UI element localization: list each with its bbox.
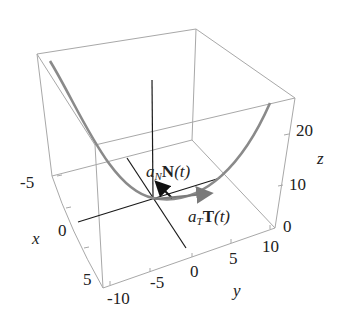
z-tick-0: 0 [283, 218, 292, 235]
y-tick-10: 10 [262, 238, 279, 255]
y-axis-label: y [233, 282, 241, 299]
normal-vec: N [162, 162, 174, 181]
normal-sub: N [155, 170, 162, 182]
y-tick-neg5: -5 [150, 274, 164, 291]
tangent-vec: T [203, 207, 214, 226]
tick-marks [57, 134, 289, 285]
y-tick-neg10: -10 [107, 290, 130, 307]
x-tick-0: 0 [58, 222, 67, 239]
3d-plot [0, 0, 352, 318]
normal-coef: a [146, 162, 155, 181]
x-axis-label: x [32, 230, 40, 247]
x-tick-neg5: -5 [20, 174, 34, 191]
tangent-coef: a [188, 207, 197, 226]
z-tick-10: 10 [289, 176, 306, 193]
z-tick-20: 20 [296, 122, 313, 139]
y-tick-0: 0 [190, 263, 199, 280]
x-tick-5: 5 [83, 271, 92, 288]
y-tick-5: 5 [229, 250, 238, 267]
normal-component-label: aNN(t) [146, 163, 190, 182]
z-axis-label: z [317, 150, 324, 167]
normal-arg: (t) [174, 162, 190, 181]
bounding-box [37, 29, 295, 288]
tangent-component-label: aTT(t) [188, 208, 230, 227]
tangent-arg: (t) [214, 207, 230, 226]
